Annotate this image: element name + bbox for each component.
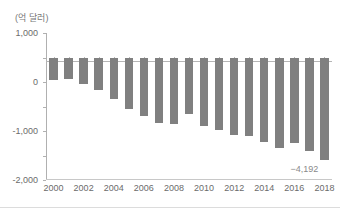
y-tick-mark: -3,000 [43, 131, 46, 132]
x-label-2018: 2018 [314, 183, 334, 193]
y-tick-mark: 1,000 [43, 33, 46, 34]
bar-2003 [94, 58, 102, 90]
bar-2016 [290, 58, 298, 144]
unit-label: (억 달러) [15, 11, 49, 24]
bar-2009 [185, 58, 193, 115]
bar-2013 [245, 58, 253, 136]
x-label-2012: 2012 [224, 183, 244, 193]
bar-2005 [125, 58, 133, 109]
y-tick-mark: -4,000 [43, 156, 46, 157]
bar-2001 [64, 58, 72, 80]
y-tick-mark: -5,000 [43, 180, 46, 181]
bar-2002 [79, 58, 87, 84]
x-label-2016: 2016 [284, 183, 304, 193]
bar-2014 [260, 58, 268, 142]
bottom-divider [0, 207, 340, 208]
bar-2008 [170, 58, 178, 125]
x-axis-line [46, 179, 332, 180]
bar-2007 [155, 58, 163, 123]
y-tick-mark: -2,000 [43, 107, 46, 108]
bar-2000 [49, 58, 57, 80]
chart-screenshot: (억 달러) 1,0000-1,000-2,000-3,000-4,000-5,… [0, 0, 340, 214]
y-axis-line [46, 33, 47, 180]
y-tick-label: 0 [33, 77, 38, 87]
y-tick-mark: -1,000 [43, 82, 46, 83]
plot-area: 1,0000-1,000-2,000-3,000-4,000-5,000 −4,… [46, 33, 332, 180]
x-label-2008: 2008 [164, 183, 184, 193]
x-label-2010: 2010 [194, 183, 214, 193]
bar-2010 [200, 58, 208, 126]
bar-2015 [275, 58, 283, 149]
x-label-2000: 2000 [44, 183, 64, 193]
y-tick-mark: 0 [43, 58, 46, 59]
x-label-2004: 2004 [104, 183, 124, 193]
x-axis-labels: 2000200220042006200820102012201420162018 [46, 183, 332, 197]
x-label-2006: 2006 [134, 183, 154, 193]
x-label-2002: 2002 [74, 183, 94, 193]
bar-2006 [140, 58, 148, 117]
x-label-2014: 2014 [254, 183, 274, 193]
y-tick-label: -1,000 [12, 126, 38, 136]
bar-2011 [215, 58, 223, 130]
y-tick-label: 1,000 [15, 28, 38, 38]
bar-2012 [230, 58, 238, 136]
bar-2004 [110, 58, 118, 100]
bar-2017 [305, 58, 313, 151]
bar-2018 [320, 58, 328, 161]
data-label-2018: −4,192 [290, 164, 318, 174]
y-tick-label: -2,000 [12, 175, 38, 185]
